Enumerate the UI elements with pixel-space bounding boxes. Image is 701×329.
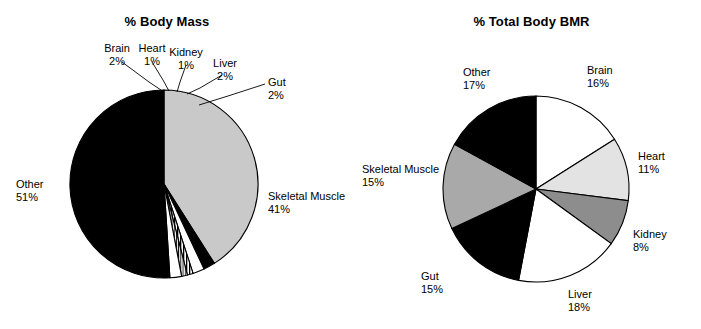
- pie-label-name: Other: [16, 178, 44, 191]
- pie-label-percent: 51%: [16, 191, 44, 204]
- pie-label-skeletal-muscle: Skeletal Muscle15%: [362, 163, 439, 188]
- pie-label-percent: 15%: [362, 176, 439, 189]
- leader-line-gut: [199, 84, 265, 105]
- pie-label-name: Brain: [587, 64, 613, 77]
- pie-label-brain: Brain2%: [104, 42, 130, 67]
- pie-label-percent: 1%: [139, 55, 166, 68]
- chart-panel-body-mass: % Body Mass Skeletal Muscle41%Gut2%Liver…: [0, 0, 350, 329]
- pie-label-heart: Heart11%: [638, 150, 665, 175]
- pie-label-name: Liver: [568, 288, 592, 301]
- pie-label-other: Other17%: [463, 66, 491, 91]
- pie-label-gut: Gut15%: [421, 270, 443, 295]
- pie-label-brain: Brain16%: [587, 64, 613, 89]
- pie-label-name: Kidney: [633, 228, 667, 241]
- pie-label-percent: 8%: [633, 241, 667, 254]
- pie-label-percent: 11%: [638, 163, 665, 176]
- pie-label-percent: 18%: [568, 301, 592, 314]
- pie-label-kidney: Kidney1%: [169, 46, 203, 71]
- pie-chart-figure: % Body Mass Skeletal Muscle41%Gut2%Liver…: [0, 0, 701, 329]
- pie-label-percent: 15%: [421, 283, 443, 296]
- pie-label-percent: 2%: [104, 55, 130, 68]
- pie-label-other: Other51%: [16, 178, 44, 203]
- pie-label-heart: Heart1%: [139, 42, 166, 67]
- pie-label-percent: 2%: [213, 70, 237, 83]
- pie-label-name: Heart: [638, 150, 665, 163]
- pie-label-percent: 1%: [169, 59, 203, 72]
- pie-label-percent: 17%: [463, 79, 491, 92]
- pie-label-percent: 2%: [268, 89, 286, 102]
- chart-panel-total-body-bmr: % Total Body BMR Brain16%Heart11%Kidney8…: [350, 0, 701, 329]
- pie-label-liver: Liver2%: [213, 57, 237, 82]
- pie-label-name: Gut: [421, 270, 443, 283]
- pie-label-name: Heart: [139, 42, 166, 55]
- pie-label-skeletal-muscle: Skeletal Muscle41%: [268, 190, 345, 215]
- pie-label-name: Brain: [104, 42, 130, 55]
- pie-label-name: Skeletal Muscle: [362, 163, 439, 176]
- pie-label-name: Other: [463, 66, 491, 79]
- pie-label-name: Skeletal Muscle: [268, 190, 345, 203]
- pie-label-kidney: Kidney8%: [633, 228, 667, 253]
- pie-label-percent: 16%: [587, 77, 613, 90]
- pie-label-liver: Liver18%: [568, 288, 592, 313]
- pie-label-percent: 41%: [268, 203, 345, 216]
- pie-label-gut: Gut2%: [268, 76, 286, 101]
- pie-slice-other[interactable]: [70, 90, 170, 278]
- pie-label-name: Kidney: [169, 46, 203, 59]
- pie-label-name: Liver: [213, 57, 237, 70]
- pie-label-name: Gut: [268, 76, 286, 89]
